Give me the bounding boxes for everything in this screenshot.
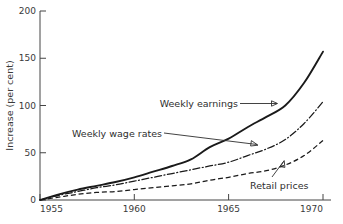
y-axis-ticks <box>40 11 46 200</box>
line-chart-canvas: 0 50 100 150 200 1955 1960 1965 1970 Inc… <box>0 0 343 224</box>
annotation-leader-weekly-earnings <box>240 101 278 106</box>
series-line-weekly-earnings <box>40 52 323 200</box>
annotation-leader-weekly-wage-rates <box>164 133 258 146</box>
x-tick-label-1970: 1970 <box>300 204 323 214</box>
chart-figure: 0 50 100 150 200 1955 1960 1965 1970 Inc… <box>0 0 343 224</box>
y-tick-label-0: 0 <box>30 195 36 205</box>
y-tick-label-200: 200 <box>19 6 36 16</box>
y-axis-title: Increase (per cent) <box>4 60 15 150</box>
y-tick-label-150: 150 <box>19 53 36 63</box>
x-tick-label-1955: 1955 <box>40 204 63 214</box>
series-label-weekly-earnings: Weekly earnings <box>160 98 238 109</box>
series-label-weekly-wage-rates: Weekly wage rates <box>72 128 162 139</box>
x-tick-label-1960: 1960 <box>123 204 146 214</box>
y-tick-label-50: 50 <box>25 148 37 158</box>
y-tick-label-100: 100 <box>19 101 36 111</box>
x-axis-ticks <box>40 194 323 200</box>
x-tick-label-1965: 1965 <box>217 204 240 214</box>
series-label-retail-prices: Retail prices <box>250 180 309 191</box>
